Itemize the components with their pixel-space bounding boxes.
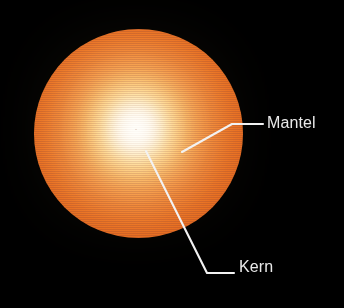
mantel-label: Mantel [267,115,316,131]
star-disc [34,29,243,238]
kern-label: Kern [239,259,273,275]
star-structure-figure: Mantel Kern [0,0,344,308]
star-graphic [34,29,243,238]
